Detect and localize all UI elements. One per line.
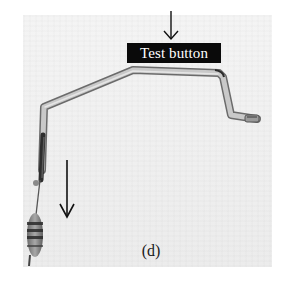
test-button-callout: Test button [127, 43, 221, 63]
panel-label: (d) [136, 242, 166, 260]
figure-panel: Test button (d) [0, 0, 286, 292]
arrow-down-icon [164, 11, 178, 39]
arrow-down-icon [60, 160, 74, 217]
